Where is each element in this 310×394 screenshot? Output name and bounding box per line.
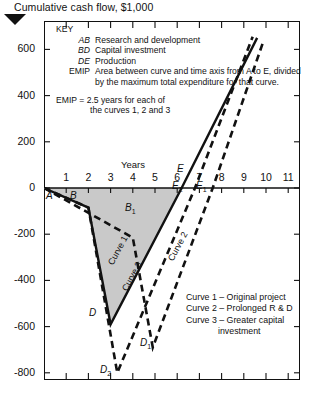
key-entry-ab: AB Research and development xyxy=(56,35,310,46)
point-label-a: A xyxy=(46,190,53,201)
key-entry-bd: BD Capital investment xyxy=(56,45,310,56)
key-heading: KEY xyxy=(56,24,310,35)
y-tick--400: -400 xyxy=(3,273,35,285)
x-tick-1: 1 xyxy=(57,171,75,183)
key-text-ab: Research and development xyxy=(95,35,310,46)
key-text-emip: Area between curve and time axis from A … xyxy=(95,66,310,87)
y-tick--800: -800 xyxy=(3,366,35,378)
x-tick-8: 8 xyxy=(213,171,231,183)
emip-note: EMIP = 2.5 years for each of the curves … xyxy=(56,95,310,116)
y-tick--600: -600 xyxy=(3,320,35,332)
y-tick-200: 200 xyxy=(3,135,35,147)
point-label-b1: B1 xyxy=(125,202,136,215)
point-label-d2: D2 xyxy=(100,364,111,377)
key-text-de: Production xyxy=(95,56,310,67)
x-tick-3: 3 xyxy=(102,171,120,183)
point-label-e1: E1 xyxy=(196,180,207,193)
key-entry-emip: EMIP Area between curve and time axis fr… xyxy=(56,66,310,87)
key-text-bd: Capital investment xyxy=(95,45,310,56)
key-code-de: DE xyxy=(56,56,95,67)
key-code-ab: AB xyxy=(56,35,95,46)
key-code-bd: BD xyxy=(56,45,95,56)
legend-item-curve3: Curve 3 – Greater capital xyxy=(186,315,293,326)
x-tick-5: 5 xyxy=(146,171,164,183)
x-axis-title: Years xyxy=(121,159,145,170)
point-label-e2: E2 xyxy=(172,180,183,193)
point-label-b: B xyxy=(70,190,77,201)
key-block: KEY AB Research and development BD Capit… xyxy=(56,24,310,116)
x-tick-2: 2 xyxy=(79,171,97,183)
legend-item-curve1: Curve 1 – Original project xyxy=(186,292,293,303)
x-tick-9: 9 xyxy=(235,171,253,183)
chart-figure: Cumulative cash flow, $1,000 6004002000-… xyxy=(0,0,310,394)
point-label-d1: D1 xyxy=(140,337,151,350)
point-label-d: D xyxy=(89,307,96,318)
y-tick-600: 600 xyxy=(3,42,35,54)
emip-note-line1: EMIP = 2.5 years for each of xyxy=(56,95,310,106)
legend-item-curve3-cont: investment xyxy=(186,326,293,337)
legend-item-curve2: Curve 2 – Prolonged R & D xyxy=(186,303,293,314)
curve-legend: Curve 1 – Original project Curve 2 – Pro… xyxy=(186,292,293,338)
point-label-e: E xyxy=(177,163,184,174)
key-code-emip: EMIP xyxy=(56,66,95,87)
x-tick-4: 4 xyxy=(124,171,142,183)
y-tick-400: 400 xyxy=(3,89,35,101)
x-tick-11: 11 xyxy=(279,171,297,183)
y-tick-0: 0 xyxy=(3,181,35,193)
key-entry-de: DE Production xyxy=(56,56,310,67)
y-tick--200: -200 xyxy=(3,227,35,239)
emip-note-line2: the curves 1, 2 and 3 xyxy=(90,105,310,116)
x-tick-10: 10 xyxy=(257,171,275,183)
